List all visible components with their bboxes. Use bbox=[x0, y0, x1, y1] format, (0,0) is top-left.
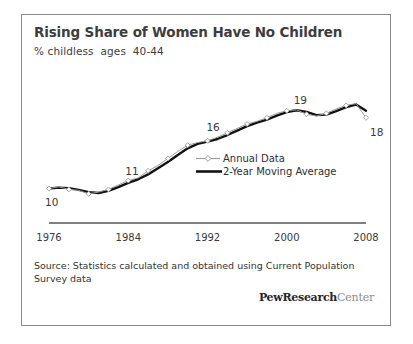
data-value-label: 16 bbox=[206, 121, 220, 133]
x-axis-tick-labels: 19761984199220002008 bbox=[36, 232, 378, 243]
series-line-annual-data bbox=[49, 104, 366, 194]
x-axis-tick-label: 2000 bbox=[274, 232, 299, 243]
chart-plot-area: 1011161918 19761984199220002008 Annual D… bbox=[22, 75, 390, 247]
pew-research-center-logo: PewResearchCenter bbox=[259, 291, 374, 304]
data-value-label: 11 bbox=[125, 165, 138, 177]
legend-label-moving-average: 2-Year Moving Average bbox=[223, 166, 337, 177]
chart-legend: Annual Data 2-Year Moving Average bbox=[196, 153, 337, 177]
series-line-moving-average bbox=[49, 105, 366, 193]
x-axis-tick-label: 2008 bbox=[353, 232, 378, 243]
page-title: Rising Share of Women Have No Children bbox=[34, 24, 342, 40]
chart-subtitle: % childless ages 40-44 bbox=[34, 45, 164, 57]
data-point-marker bbox=[47, 186, 52, 191]
x-axis-tick-label: 1976 bbox=[36, 232, 61, 243]
x-axis-tick-label: 1992 bbox=[195, 232, 220, 243]
legend-label-annual-data: Annual Data bbox=[223, 153, 285, 164]
data-value-label: 19 bbox=[294, 94, 307, 106]
legend-marker-annual-data bbox=[205, 156, 211, 162]
x-axis-tick-label: 1984 bbox=[116, 232, 141, 243]
source-note: Source: Statistics calculated and obtain… bbox=[34, 259, 374, 285]
data-value-label: 10 bbox=[45, 196, 58, 208]
series-markers-annual-data bbox=[47, 103, 369, 196]
data-value-label: 18 bbox=[370, 126, 383, 138]
line-chart-svg: 1011161918 19761984199220002008 Annual D… bbox=[22, 75, 390, 247]
figure-frame: Rising Share of Women Have No Children %… bbox=[21, 14, 391, 326]
logo-text-light: Center bbox=[337, 291, 374, 304]
logo-text-bold: PewResearch bbox=[259, 291, 337, 304]
